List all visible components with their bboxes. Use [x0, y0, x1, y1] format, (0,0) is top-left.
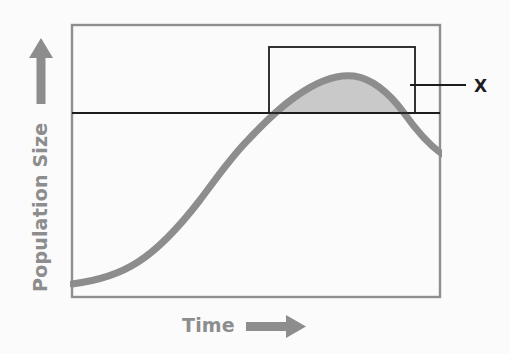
- x-axis-label-group: Time: [182, 314, 306, 338]
- figure-root: Population Size X Time: [0, 0, 510, 354]
- population-overshoot-diagram: Population Size X Time: [0, 0, 510, 354]
- plot-frame: [72, 25, 440, 297]
- x-axis-label: Time: [182, 314, 235, 336]
- y-axis-label: Population Size: [29, 123, 51, 292]
- arrow-right-icon: [246, 315, 306, 338]
- overshoot-shaded-region: [72, 75, 440, 297]
- y-axis-label-group: Population Size: [29, 38, 53, 292]
- callout-label: X: [474, 76, 487, 96]
- arrow-up-icon: [29, 38, 53, 104]
